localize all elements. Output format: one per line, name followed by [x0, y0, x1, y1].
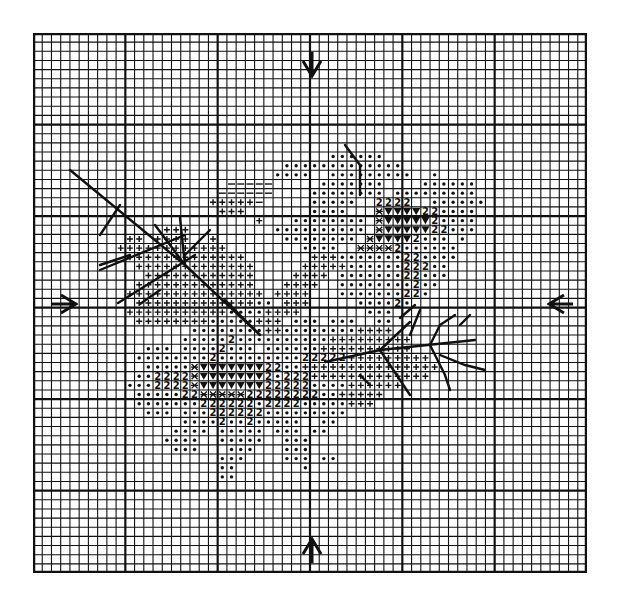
svg-text:2: 2	[394, 197, 401, 208]
stitch-grid: 2222222222222222222222222222222222222222…	[33, 33, 587, 573]
svg-text:2: 2	[394, 243, 401, 254]
cross-stitch-chart: 2222222222222222222222222222222222222222…	[33, 33, 587, 573]
left-center-arrow-icon	[52, 292, 78, 316]
svg-text:2: 2	[256, 407, 263, 418]
svg-text:2: 2	[237, 407, 244, 418]
svg-text:2: 2	[246, 416, 253, 427]
svg-text:2: 2	[219, 416, 226, 427]
svg-text:2: 2	[163, 380, 170, 391]
svg-text:2: 2	[376, 197, 383, 208]
svg-text:2: 2	[228, 334, 235, 345]
svg-text:2: 2	[274, 362, 281, 373]
svg-text:2: 2	[210, 352, 217, 363]
svg-text:2: 2	[431, 224, 438, 235]
top-center-arrow-icon	[300, 52, 324, 78]
svg-text:2: 2	[422, 261, 429, 272]
bottom-center-arrow-icon	[300, 537, 324, 563]
svg-text:2: 2	[173, 380, 180, 391]
svg-text:2: 2	[413, 288, 420, 299]
svg-text:2: 2	[311, 352, 318, 363]
svg-text:2: 2	[385, 197, 392, 208]
right-center-arrow-icon	[547, 292, 573, 316]
svg-text:2: 2	[403, 270, 410, 281]
svg-text:2: 2	[219, 343, 226, 354]
svg-text:2: 2	[302, 352, 309, 363]
svg-text:2: 2	[210, 407, 217, 418]
svg-text:2: 2	[228, 407, 235, 418]
svg-text:2: 2	[440, 224, 447, 235]
svg-text:2: 2	[403, 288, 410, 299]
svg-text:2: 2	[413, 233, 420, 244]
svg-text:2: 2	[403, 197, 410, 208]
svg-text:2: 2	[154, 380, 161, 391]
